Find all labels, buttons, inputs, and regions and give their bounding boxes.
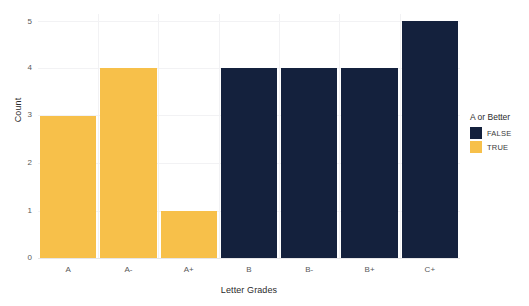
x-axis-line xyxy=(38,258,460,259)
y-tick-label-5: 5 xyxy=(6,18,32,26)
bar-Aminus[interactable] xyxy=(100,68,156,258)
bar-B[interactable] xyxy=(221,68,277,258)
x-tick-label-B: B xyxy=(221,266,277,274)
bar-series xyxy=(38,14,460,258)
plot-area xyxy=(38,14,460,258)
y-tick-label-1: 1 xyxy=(6,207,32,215)
legend-item-false[interactable]: FALSE xyxy=(470,127,528,139)
x-axis-title: Letter Grades xyxy=(38,285,460,295)
bar-chart: 5 4 3 2 1 0 Count AA-A+BB-B+C+ Letter Gr… xyxy=(0,0,529,306)
bar-Bplus[interactable] xyxy=(341,68,397,258)
legend-swatch-true-icon xyxy=(470,141,482,153)
x-tick-label-Cplus: C+ xyxy=(402,266,458,274)
x-tick-label-Bminus: B- xyxy=(281,266,337,274)
x-axis-ticks: AA-A+BB-B+C+ xyxy=(38,266,460,280)
x-tick-label-Bplus: B+ xyxy=(341,266,397,274)
legend-title: A or Better xyxy=(470,112,528,122)
bar-Cplus[interactable] xyxy=(402,21,458,258)
bar-A[interactable] xyxy=(40,116,96,258)
y-tick-label-0: 0 xyxy=(6,254,32,262)
y-axis-ticks: 5 4 3 2 1 0 xyxy=(0,0,32,306)
legend-item-true[interactable]: TRUE xyxy=(470,141,528,153)
legend: A or Better FALSE TRUE xyxy=(470,112,528,155)
x-tick-label-Aplus: A+ xyxy=(161,266,217,274)
legend-label-false: FALSE xyxy=(487,129,511,138)
bar-Bminus[interactable] xyxy=(281,68,337,258)
legend-swatch-false-icon xyxy=(470,127,482,139)
y-tick-label-4: 4 xyxy=(6,64,32,72)
x-tick-label-A: A xyxy=(40,266,96,274)
legend-label-true: TRUE xyxy=(487,143,508,152)
y-tick-label-2: 2 xyxy=(6,159,32,167)
bar-Aplus[interactable] xyxy=(161,211,217,258)
x-tick-label-Aminus: A- xyxy=(100,266,156,274)
y-axis-title: Count xyxy=(13,80,23,140)
